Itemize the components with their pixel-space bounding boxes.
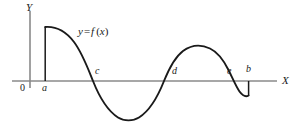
y-axis-label: Y: [26, 2, 32, 13]
origin-label: 0: [20, 83, 25, 93]
tick-label-d: d: [172, 66, 177, 76]
tick-label-b: b: [246, 64, 251, 74]
function-curve: [45, 27, 248, 120]
plot-canvas: [0, 0, 299, 128]
tick-label-a: a: [42, 83, 47, 93]
tick-label-c: c: [95, 66, 99, 76]
curve-label-close-paren: ): [105, 25, 109, 37]
tick-label-e: e: [227, 66, 231, 76]
x-axis-label: X: [282, 75, 289, 86]
function-graph-figure: Y X 0 y=f(x) a c d e b: [0, 0, 299, 128]
curve-label-equals: =: [83, 25, 91, 37]
curve-equation-label: y=f(x): [78, 26, 108, 37]
